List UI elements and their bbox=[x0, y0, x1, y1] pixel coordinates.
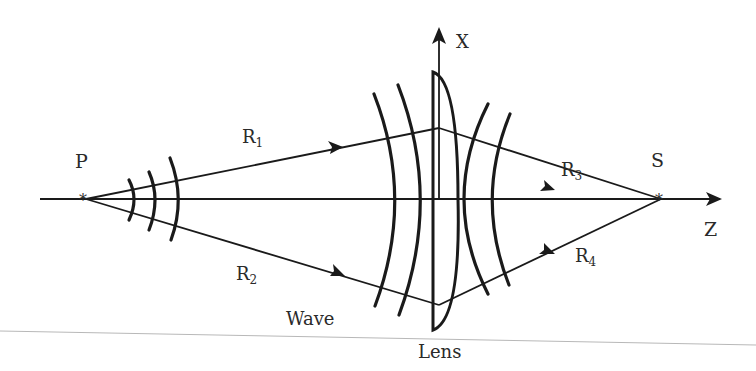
lens-shape bbox=[433, 72, 458, 330]
optics-diagram: * * P S X Z R1 R2 R3 R4 Wave Lens bbox=[0, 0, 756, 371]
ray-r2-label-base: R bbox=[236, 263, 250, 284]
z-axis bbox=[40, 192, 722, 206]
point-p-marker: * bbox=[79, 191, 87, 210]
x-axis-label: X bbox=[456, 31, 469, 52]
ray-r1-label-subscript: 1 bbox=[256, 136, 264, 150]
ray-r3-arrow-icon bbox=[540, 180, 555, 191]
ray-r3-label: R3 bbox=[561, 159, 582, 183]
lens-label: Lens bbox=[418, 341, 461, 362]
point-p-label: P bbox=[75, 150, 88, 172]
ray-r4-label-base: R bbox=[575, 245, 589, 266]
ray-r2-label-subscript: 2 bbox=[250, 273, 258, 287]
z-axis-label: Z bbox=[704, 218, 717, 240]
ray-arrows bbox=[328, 141, 555, 276]
ray-r1-label-base: R bbox=[242, 126, 256, 147]
page-rule bbox=[0, 331, 756, 345]
ray-r2 bbox=[86, 199, 439, 305]
point-s-marker: * bbox=[655, 191, 663, 210]
ray-r3-label-base: R bbox=[561, 159, 575, 180]
ray-r4-label-subscript: 4 bbox=[589, 255, 597, 269]
ray-r4-arrow-icon bbox=[539, 243, 555, 254]
wave-label: Wave bbox=[286, 308, 335, 329]
ray-r2-label: R2 bbox=[236, 263, 257, 287]
ray-r3-label-subscript: 3 bbox=[575, 169, 583, 183]
rays bbox=[86, 128, 661, 305]
ray-r1-label: R1 bbox=[242, 126, 263, 150]
ray-r2-arrow-icon bbox=[330, 264, 345, 276]
ray-r1-arrow-icon bbox=[328, 141, 343, 154]
ray-r4-label: R4 bbox=[575, 245, 597, 269]
point-s-label: S bbox=[651, 149, 664, 171]
